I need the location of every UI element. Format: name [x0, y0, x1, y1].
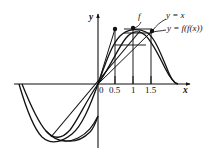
- leader-composite: [153, 30, 166, 32]
- curve-f-label: f: [138, 12, 141, 21]
- x-axis-label: x: [183, 86, 188, 96]
- origin-label: 0: [99, 86, 104, 95]
- x-tick-label-0: 0.5: [109, 86, 120, 95]
- marker-peak-left: [113, 27, 117, 31]
- leader-identity: [153, 19, 166, 30]
- cobweb-rays: [98, 29, 152, 84]
- curve-f-of-f-lobe: [46, 116, 98, 141]
- identity-line-label: y = x: [166, 11, 185, 20]
- composite-curve-label: y = f(f(x)): [167, 24, 203, 33]
- leader-f: [134, 22, 141, 28]
- x-tick-label-2: 1.5: [145, 86, 156, 95]
- x-tick-label-1: 1: [131, 86, 136, 95]
- axes-group: [14, 14, 190, 148]
- y-axis-label: y: [89, 13, 93, 23]
- math-figure: 0 0.5 1 1.5 x y f y = x y = f(f(x)): [0, 0, 214, 159]
